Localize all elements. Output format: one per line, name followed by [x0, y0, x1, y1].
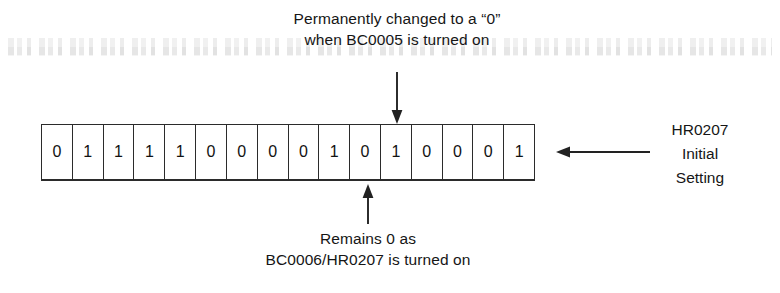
register-label-line-2: Initial	[672, 142, 729, 166]
bit-cell: 1	[381, 125, 412, 179]
register-bit-row: 0 1 1 1 1 0 0 0 0 1 0 1 0 0 0 1	[41, 124, 535, 181]
bit-cell: 0	[412, 125, 443, 179]
bit-cell: 0	[42, 125, 73, 179]
top-annotation-line-2: when BC0005 is turned on	[293, 29, 500, 50]
bit-cell: 1	[319, 125, 350, 179]
bit-cell: 1	[504, 125, 534, 179]
bottom-annotation-line-1: Remains 0 as	[265, 228, 470, 249]
bit-cell: 0	[443, 125, 474, 179]
bit-cell: 1	[165, 125, 196, 179]
bit-cell: 0	[473, 125, 504, 179]
bit-cell: 1	[134, 125, 165, 179]
register-label-arrow	[556, 146, 650, 157]
bottom-annotation-text: Remains 0 as BC0006/HR0207 is turned on	[265, 228, 470, 270]
bit-cell: 1	[104, 125, 135, 179]
top-annotation-arrow	[392, 72, 403, 124]
bit-cell: 0	[258, 125, 289, 179]
bottom-annotation-line-2: BC0006/HR0207 is turned on	[265, 249, 470, 270]
bit-cell: 1	[73, 125, 104, 179]
register-label-line-3: Setting	[672, 166, 729, 190]
register-label: HR0207 Initial Setting	[672, 118, 729, 190]
bit-cell: 0	[289, 125, 320, 179]
top-annotation-line-1: Permanently changed to a “0”	[293, 8, 500, 29]
register-bitmap-figure: Permanently changed to a “0” when BC0005…	[0, 0, 780, 293]
bottom-annotation-arrow	[363, 184, 374, 224]
register-label-line-1: HR0207	[672, 118, 729, 142]
top-annotation-text: Permanently changed to a “0” when BC0005…	[293, 8, 500, 50]
bit-cell: 0	[350, 125, 381, 179]
bit-cell: 0	[227, 125, 258, 179]
bit-cell: 0	[196, 125, 227, 179]
